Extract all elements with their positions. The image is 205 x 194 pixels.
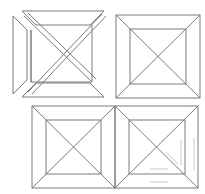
top-frame-piece bbox=[22, 11, 104, 25]
exploded-frame-panel bbox=[13, 11, 106, 97]
frame-diagram bbox=[0, 0, 205, 194]
assembled-frame-top-right bbox=[116, 15, 200, 98]
assembled-frame-bottom-left bbox=[32, 106, 115, 188]
assembled-frame-bottom-right bbox=[115, 106, 198, 188]
left-frame-piece bbox=[13, 16, 27, 94]
diagram-canvas bbox=[0, 0, 205, 194]
diagonal-a bbox=[24, 16, 92, 82]
